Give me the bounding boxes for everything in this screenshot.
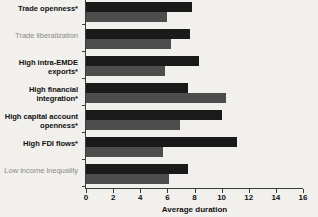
category-label: Trade openness* bbox=[0, 4, 78, 13]
bar-chart: Trade openness*Trade liberalizationHigh … bbox=[0, 0, 318, 217]
bar-light bbox=[86, 66, 165, 76]
category-label: High intra-EMDE exports* bbox=[0, 58, 78, 76]
bar-dark bbox=[86, 110, 222, 120]
bar-dark bbox=[86, 137, 237, 147]
bar-group bbox=[86, 137, 303, 157]
x-axis-tick-label: 4 bbox=[128, 193, 152, 202]
y-axis-tick bbox=[82, 24, 86, 25]
bar-group bbox=[86, 56, 303, 76]
x-axis: Average duration 0246810121416 bbox=[86, 189, 303, 217]
x-axis-tick-label: 16 bbox=[291, 193, 315, 202]
y-axis-tick bbox=[82, 51, 86, 52]
bar-dark bbox=[86, 83, 188, 93]
category-label: Low income inequality bbox=[0, 166, 78, 175]
x-axis-tick-label: 10 bbox=[210, 193, 234, 202]
plot-area bbox=[86, 0, 303, 189]
category-labels: Trade openness*Trade liberalizationHigh … bbox=[0, 0, 82, 189]
category-label: High FDI flows* bbox=[0, 139, 78, 148]
x-axis-title: Average duration bbox=[86, 205, 303, 214]
x-axis-tick-label: 14 bbox=[264, 193, 288, 202]
bar-light bbox=[86, 174, 169, 184]
bar-group bbox=[86, 2, 303, 22]
bar-group bbox=[86, 83, 303, 103]
y-axis-tick bbox=[82, 78, 86, 79]
y-axis-tick bbox=[82, 132, 86, 133]
bar-group bbox=[86, 29, 303, 49]
bar-dark bbox=[86, 2, 192, 12]
bar-dark bbox=[86, 164, 188, 174]
category-label: High capital account openness* bbox=[0, 112, 78, 130]
x-axis-tick-label: 0 bbox=[74, 193, 98, 202]
bar-dark bbox=[86, 56, 199, 66]
bar-light bbox=[86, 147, 163, 157]
y-axis-tick bbox=[82, 186, 86, 187]
bar-group bbox=[86, 110, 303, 130]
bar-light bbox=[86, 39, 171, 49]
bar-light bbox=[86, 120, 180, 130]
category-label: Trade liberalization bbox=[0, 31, 78, 40]
x-axis-tick-label: 12 bbox=[237, 193, 261, 202]
category-label: High financial integration* bbox=[0, 85, 78, 103]
x-axis-tick-label: 2 bbox=[101, 193, 125, 202]
y-axis-tick bbox=[82, 159, 86, 160]
x-axis-tick-label: 8 bbox=[183, 193, 207, 202]
x-axis-tick-label: 6 bbox=[155, 193, 179, 202]
bar-light bbox=[86, 93, 226, 103]
bar-light bbox=[86, 12, 167, 22]
bar-dark bbox=[86, 29, 190, 39]
y-axis-tick bbox=[82, 105, 86, 106]
bar-group bbox=[86, 164, 303, 184]
